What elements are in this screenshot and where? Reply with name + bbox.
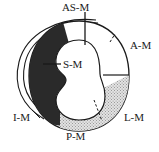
label-anterior-mid: A-M [130,40,151,51]
label-septal-mid: S-M [63,59,82,70]
cardiac-short-axis-diagram: AS-M A-M L-M P-M I-M S-M [0,0,159,152]
label-lateral-mid: L-M [124,112,144,123]
label-inferior-mid: I-M [13,112,30,123]
label-posterior-mid: P-M [66,131,85,142]
label-anteroseptal-mid: AS-M [62,2,89,13]
